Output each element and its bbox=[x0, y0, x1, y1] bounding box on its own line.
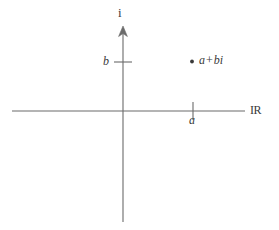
real-axis-label: IR bbox=[250, 104, 261, 116]
imaginary-axis-label: i bbox=[118, 6, 122, 19]
point-label-operator: + bbox=[205, 53, 214, 67]
tick-label-a: a bbox=[189, 114, 195, 126]
complex-plane-figure: i IR b a a+bi bbox=[0, 0, 279, 230]
axes-graphic bbox=[0, 0, 279, 230]
point-label: a+bi bbox=[199, 54, 223, 66]
point-marker-dot bbox=[190, 60, 194, 64]
point-label-imaginary: bi bbox=[214, 53, 223, 67]
tick-label-b: b bbox=[103, 55, 109, 67]
